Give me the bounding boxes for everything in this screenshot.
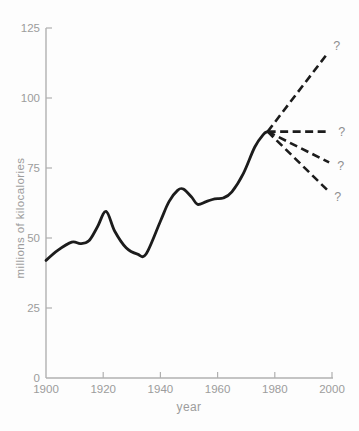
kilocalories-trend-chart: 0255075100125190019201940196019802000???… (0, 0, 359, 431)
x-tick-label: 2000 (319, 383, 345, 395)
y-tick-label: 50 (27, 232, 40, 244)
x-tick-label: 1940 (148, 383, 174, 395)
y-tick-label: 100 (21, 92, 40, 104)
x-tick-label: 1960 (205, 383, 231, 395)
projection-line (268, 53, 328, 131)
projection-line (268, 132, 329, 163)
question-mark-label: ? (333, 39, 340, 53)
historical-curve (46, 132, 268, 261)
x-tick-label: 1920 (90, 383, 116, 395)
y-tick-label: 25 (27, 302, 40, 314)
question-mark-label: ? (338, 125, 345, 139)
x-tick-label: 1900 (33, 383, 59, 395)
chart-canvas: 0255075100125190019201940196019802000???… (0, 0, 359, 431)
question-mark-label: ? (337, 159, 344, 173)
y-tick-label: 125 (21, 22, 40, 34)
y-tick-label: 75 (27, 162, 40, 174)
x-tick-label: 1980 (262, 383, 288, 395)
y-axis-title: millions of kilocalories (14, 158, 26, 279)
projection-line (268, 132, 328, 191)
question-mark-label: ? (334, 190, 341, 204)
x-axis-title: year (46, 400, 332, 414)
